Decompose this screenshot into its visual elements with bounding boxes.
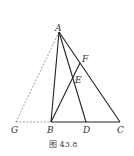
label-D: D (82, 125, 90, 135)
segment-AC (59, 32, 120, 122)
geometry-figure: A F E G B D C 图 43.8 (0, 0, 134, 156)
label-E: E (74, 75, 82, 85)
label-B: B (46, 125, 54, 135)
label-F: F (81, 54, 89, 64)
label-G: G (11, 125, 18, 135)
label-A: A (54, 23, 62, 33)
label-C: C (117, 125, 124, 135)
figure-caption: 图 43.8 (49, 140, 77, 149)
segment-AD (59, 32, 86, 122)
